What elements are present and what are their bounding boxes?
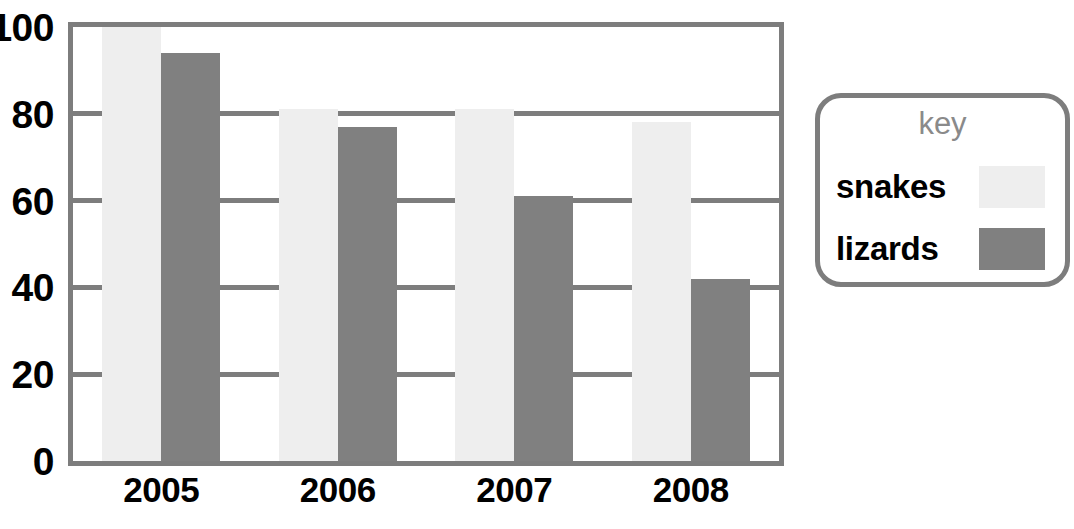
x-tick-label-2006: 2006	[300, 470, 376, 510]
legend-item-label: snakes	[836, 168, 946, 206]
legend-item-label: lizards	[836, 230, 938, 268]
y-tick-label-100: 100	[0, 8, 54, 47]
legend-item-snakes: snakes	[820, 156, 1065, 218]
bar-chart-figure: 020406080100 2005200620072008	[0, 0, 800, 529]
bars-layer	[73, 27, 779, 461]
bar-snakes-2008	[632, 122, 691, 461]
y-tick-label-60: 60	[12, 181, 54, 220]
plot-area	[68, 22, 784, 466]
y-tick-label-0: 0	[33, 442, 54, 481]
bar-lizards-2006	[338, 127, 397, 461]
bar-lizards-2008	[691, 279, 750, 461]
legend-title: key	[820, 106, 1065, 142]
y-tick-label-40: 40	[12, 268, 54, 307]
x-axis-tick-labels: 2005200620072008	[68, 470, 784, 520]
chart-page: 020406080100 2005200620072008 key snakes…	[0, 0, 1074, 529]
bar-snakes-2007	[455, 109, 514, 461]
bar-lizards-2005	[161, 53, 220, 461]
bar-snakes-2005	[102, 27, 161, 461]
x-tick-label-2008: 2008	[653, 470, 729, 510]
y-tick-label-20: 20	[12, 355, 54, 394]
chart-title-cropped	[150, 0, 310, 2]
legend-entries: snakeslizards	[820, 156, 1065, 280]
legend-key-box: key snakeslizards	[815, 93, 1070, 287]
y-axis-tick-labels: 020406080100	[0, 0, 62, 529]
legend-swatch-lizards	[979, 228, 1045, 270]
bar-snakes-2006	[279, 109, 338, 461]
x-tick-label-2005: 2005	[123, 470, 199, 510]
legend-swatch-snakes	[979, 166, 1045, 208]
y-tick-label-80: 80	[12, 94, 54, 133]
x-tick-label-2007: 2007	[476, 470, 552, 510]
bar-lizards-2007	[514, 196, 573, 461]
legend-item-lizards: lizards	[820, 218, 1065, 280]
